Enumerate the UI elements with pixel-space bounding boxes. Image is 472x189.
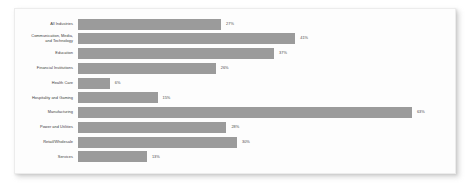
bar-track: 27% [78,18,449,30]
bar-value-label: 6% [110,81,121,86]
bar-category-label: Services [15,155,78,160]
bar-category-label: Education [15,51,78,56]
screenshot-stage: All Industries27%Communication, Media, a… [0,0,472,189]
bar-track: 41% [78,33,449,45]
bar-row: Communication, Media, and Technology41% [15,33,449,45]
bar-track: 37% [78,48,449,60]
bar-value-label: 26% [216,66,229,71]
bar-track: 26% [78,62,449,74]
bar-value-label: 63% [412,110,425,115]
bar-category-label: Financial Institutions [15,66,78,71]
bar-value-label: 28% [226,125,239,130]
bar-row: Power and Utilities28% [15,121,449,133]
bar[interactable] [78,48,274,59]
bar-row: Education37% [15,48,449,60]
bar-value-label: 41% [295,36,308,41]
bar-category-label: Manufacturing [15,110,78,115]
bar-track: 30% [78,136,449,148]
bar-row: Hospitality and Gaming15% [15,92,449,104]
bar-category-label: Power and Utilities [15,125,78,130]
bar-value-label: 37% [274,51,287,56]
bar-row: Financial Institutions26% [15,62,449,74]
bar-row: Services13% [15,151,449,163]
bar-value-label: 27% [221,22,234,27]
bar-track: 13% [78,151,449,163]
bar-category-label: Communication, Media, and Technology [15,34,78,43]
bar-row: Manufacturing63% [15,107,449,119]
bar-row: Health Care6% [15,77,449,89]
bar-category-label: All Industries [15,22,78,27]
chart-card: All Industries27%Communication, Media, a… [14,8,456,174]
bar-value-label: 30% [237,140,250,145]
bar[interactable] [78,19,221,30]
bar[interactable] [78,151,147,162]
bar-category-label: Retail/Wholesale [15,140,78,145]
bar[interactable] [78,63,216,74]
bar-value-label: 15% [158,96,171,101]
bar-track: 63% [78,107,449,119]
bar-chart-plot: All Industries27%Communication, Media, a… [15,9,455,173]
bar-category-label: Health Care [15,81,78,86]
bar-row: All Industries27% [15,18,449,30]
bar[interactable] [78,137,237,148]
bar[interactable] [78,92,158,103]
bar[interactable] [78,122,226,133]
bar-row: Retail/Wholesale30% [15,136,449,148]
bar-category-label: Hospitality and Gaming [15,96,78,101]
bar-track: 28% [78,121,449,133]
bar[interactable] [78,78,110,89]
bar[interactable] [78,107,412,118]
bar-track: 15% [78,92,449,104]
bar-value-label: 13% [147,155,160,160]
bar[interactable] [78,33,295,44]
bar-track: 6% [78,77,449,89]
